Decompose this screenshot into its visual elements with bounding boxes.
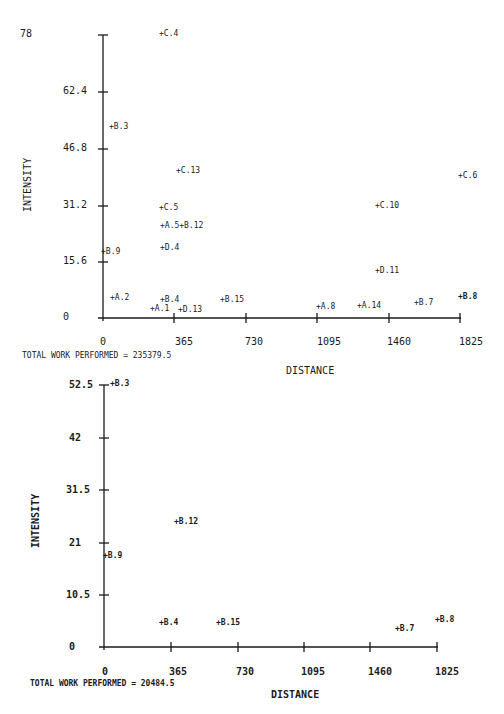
total-work-performed: TOTAL WORK PERFORMED = 20484.5: [30, 679, 175, 688]
bottom-axes: [0, 0, 504, 714]
bottom-scatter-chart: INTENSITY 52.5 42 31.5 21 10.5 0 0 365 7…: [0, 0, 504, 714]
point-label: +B.7: [395, 624, 414, 633]
y-tick-label: 31.5: [66, 485, 106, 495]
x-axis-title: DISTANCE: [271, 690, 319, 700]
y-tick-label: 52.5: [69, 380, 109, 390]
x-tick-label: 1460: [360, 667, 400, 677]
point-label: +B.4: [159, 618, 178, 627]
x-tick-label: 0: [85, 667, 125, 677]
y-tick-label: 21: [69, 538, 109, 548]
point-label: +B.9: [103, 551, 122, 560]
point-label: +B.15: [216, 618, 240, 627]
point-label: +B.3: [110, 379, 129, 388]
point-label: +B.12: [174, 517, 198, 526]
y-axis-title: INTENSITY: [30, 494, 41, 548]
y-tick-label: 10.5: [66, 590, 106, 600]
x-tick-label: 730: [225, 667, 265, 677]
x-tick-label: 1095: [293, 667, 333, 677]
y-tick-label: 0: [69, 642, 109, 652]
x-tick-label: 365: [158, 667, 198, 677]
point-label: +B.8: [435, 615, 454, 624]
x-tick-label: 1825: [427, 667, 467, 677]
y-tick-label: 42: [69, 433, 109, 443]
